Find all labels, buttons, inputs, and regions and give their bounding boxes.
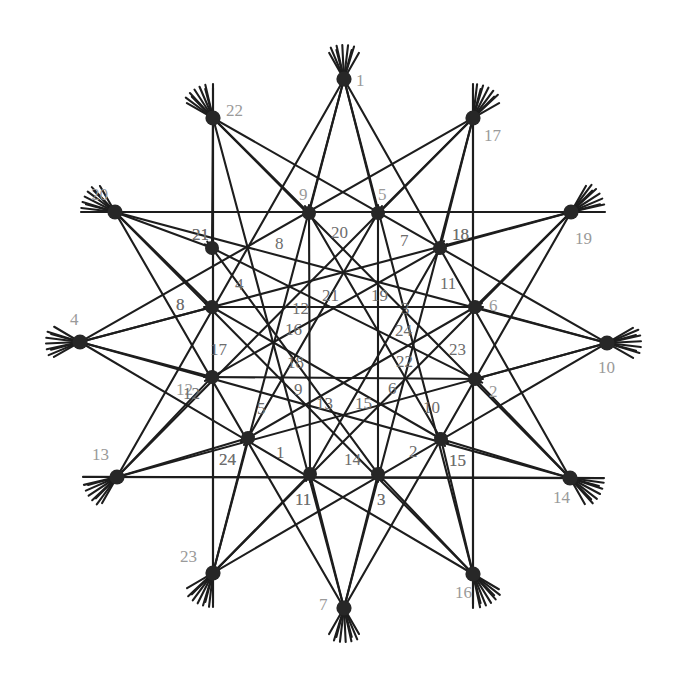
region-label-7-1: 7 (400, 232, 409, 249)
chord-line (471, 375, 574, 483)
vertex-label-22: 22 (226, 102, 243, 119)
vertex-label-16: 16 (455, 584, 472, 601)
vertex-node-5 (371, 206, 385, 220)
chord-line (204, 377, 483, 379)
region-label-15-20: 15 (355, 395, 372, 412)
vertex-label-7: 7 (319, 596, 328, 613)
vertex-node-10 (599, 335, 614, 350)
vertex-node-20 (107, 204, 122, 219)
region-label-6-16: 6 (388, 380, 397, 397)
vertex-label-17: 17 (484, 127, 501, 144)
vertex-node-23 (205, 565, 220, 580)
vertex-node-18 (433, 241, 447, 255)
vertex-label-20: 20 (91, 186, 108, 203)
vertex-node-9 (302, 206, 316, 220)
region-label-4-3: 4 (235, 276, 244, 293)
region-label-21-30: 21 (192, 226, 209, 243)
region-label-8-2: 8 (275, 235, 284, 252)
vertex-label-6: 6 (489, 297, 498, 314)
region-label-12-21: 12 (183, 385, 200, 402)
chord-line (212, 112, 213, 254)
region-label-13-19: 13 (316, 395, 333, 412)
vertex-node-16 (465, 566, 480, 581)
vertex-label-9: 9 (299, 186, 308, 203)
region-label-1-24: 1 (276, 444, 285, 461)
chord-line (205, 244, 482, 382)
vertex-node-1 (336, 71, 351, 86)
region-label-5-17: 5 (257, 400, 266, 417)
region-label-11-27: 11 (295, 491, 311, 508)
region-label-8-22: 8 (176, 296, 185, 313)
region-label-11-4: 11 (440, 275, 456, 292)
vertex-node-12 (205, 370, 219, 384)
diagram-canvas (0, 0, 681, 682)
vertex-node-19 (563, 204, 578, 219)
region-label-18-31: 18 (452, 226, 469, 243)
star-polygon-figure: 1221720194101314231679521188612224151132… (0, 0, 681, 682)
chord-line (87, 477, 600, 478)
vertex-node-2 (468, 372, 482, 386)
chord-line (309, 468, 346, 614)
chord-line (343, 73, 380, 219)
region-label-24-23: 24 (219, 451, 236, 468)
vertex-label-10: 10 (598, 359, 615, 376)
vertex-label-23: 23 (180, 548, 197, 565)
vertex-label-4: 4 (70, 311, 79, 328)
region-label-2-26: 2 (409, 443, 418, 460)
region-label-21-5: 21 (322, 287, 339, 304)
vertex-node-6 (468, 300, 482, 314)
vertex-node-7 (336, 600, 351, 615)
vertex-node-22 (205, 110, 220, 125)
vertex-node-3 (371, 467, 385, 481)
vertex-label-14: 14 (553, 489, 570, 506)
vertex-node-24 (241, 431, 255, 445)
region-label-9-15: 9 (294, 381, 303, 398)
vertex-node-15 (434, 432, 448, 446)
chord-line (343, 468, 380, 614)
region-label-23-12: 23 (449, 341, 466, 358)
vertex-label-1: 1 (356, 72, 365, 89)
region-label-22-14: 22 (396, 353, 413, 370)
vertex-node-4 (72, 334, 87, 349)
vertex-node-17 (465, 110, 480, 125)
vertex-node-13 (109, 469, 124, 484)
chord-line (187, 103, 633, 358)
region-label-24-10: 24 (395, 322, 412, 339)
chord-line (309, 205, 310, 482)
spur-group (46, 45, 641, 642)
region-label-20-0: 20 (331, 224, 348, 241)
vertex-label-19: 19 (575, 230, 592, 247)
region-label-12-7: 12 (292, 300, 309, 317)
chord-line (307, 73, 345, 219)
vertex-node-11 (303, 467, 317, 481)
region-label-3-8: 3 (401, 300, 410, 317)
region-label-19-6: 19 (371, 287, 388, 304)
chord-line (54, 103, 499, 357)
region-label-14-25: 14 (344, 451, 361, 468)
region-label-17-11: 17 (210, 341, 227, 358)
vertex-label-2: 2 (489, 383, 498, 400)
vertex-label-5: 5 (378, 186, 387, 203)
region-label-16-9: 16 (285, 321, 302, 338)
region-label-15-29: 15 (449, 452, 466, 469)
vertex-node-14 (562, 470, 577, 485)
chord-line (74, 340, 218, 378)
vertex-node-8 (205, 300, 219, 314)
region-label-18-13: 18 (287, 354, 304, 371)
vertex-label-13: 13 (92, 446, 109, 463)
chord-line (469, 341, 613, 380)
region-label-10-18: 10 (423, 399, 440, 416)
region-label-3-28: 3 (377, 491, 386, 508)
edge-group (51, 50, 636, 637)
node-group (72, 71, 614, 615)
